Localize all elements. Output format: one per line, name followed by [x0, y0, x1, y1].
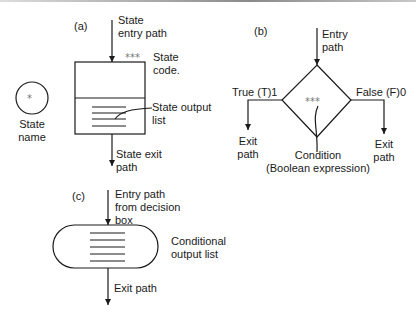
state-name-marker: *	[27, 92, 32, 105]
state-output-leader	[115, 108, 152, 119]
state-exit-label: State exit path	[116, 148, 162, 174]
state-code-marker: ***	[125, 51, 140, 64]
conditional-entry-label: Entry path from decision box	[115, 188, 180, 227]
panel-b-label: (b)	[254, 25, 267, 38]
true-branch-label: True (T)1	[232, 86, 277, 99]
false-branch-label: False (F)0	[356, 86, 406, 99]
state-entry-label: State entry path	[118, 14, 167, 40]
state-name-label: State name	[14, 118, 50, 144]
state-output-label: State output list	[152, 101, 211, 127]
conditional-output-label: Conditional output list	[171, 235, 226, 261]
state-name-circle	[16, 82, 48, 114]
panel-c-label: (c)	[72, 190, 85, 203]
true-exit-label: Exit path	[234, 135, 262, 161]
condition-label: Condition (Boolean expression)	[262, 149, 374, 175]
state-code-label: State code.	[153, 51, 180, 77]
true-exit-line	[248, 100, 282, 130]
decision-entry-label: Entry path	[322, 28, 348, 54]
decision-marker: ***	[305, 95, 320, 108]
false-exit-line	[351, 100, 384, 134]
conditional-exit-label: Exit path	[114, 282, 157, 295]
condition-leader	[315, 106, 318, 152]
panel-a-label: (a)	[74, 20, 87, 33]
